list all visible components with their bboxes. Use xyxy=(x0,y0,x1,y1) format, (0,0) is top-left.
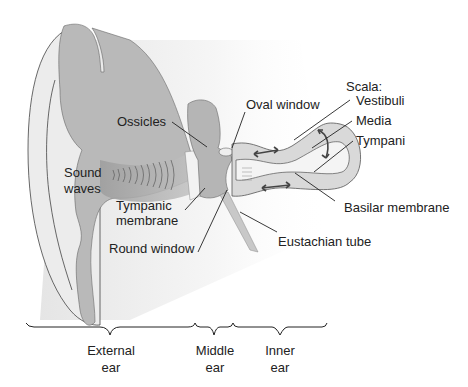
label-scala-heading: Scala: xyxy=(346,79,382,94)
oval-window-stapes xyxy=(219,148,233,156)
region-inner-ear: Inner ear xyxy=(256,343,304,375)
label-scala-tympani: Tympani xyxy=(356,133,405,148)
label-round-window: Round window xyxy=(109,241,194,256)
label-sound-waves-2: waves xyxy=(64,181,101,196)
region-middle-ear: Middle ear xyxy=(192,343,238,375)
label-ossicles: Ossicles xyxy=(117,114,166,129)
region-inner-line1: Inner xyxy=(256,343,304,358)
region-inner-line2: ear xyxy=(256,360,304,375)
region-middle-line2: ear xyxy=(192,360,238,375)
label-basilar-membrane: Basilar membrane xyxy=(344,200,450,215)
region-braces xyxy=(26,323,327,335)
region-middle-line1: Middle xyxy=(192,343,238,358)
label-eustachian-tube: Eustachian tube xyxy=(278,234,371,249)
label-oval-window: Oval window xyxy=(246,97,320,112)
region-external-ear: External ear xyxy=(80,343,142,375)
label-tympanic-2: membrane xyxy=(116,213,178,228)
label-scala-media: Media xyxy=(356,113,391,128)
label-tympanic-1: Tympanic xyxy=(116,198,172,213)
region-external-line1: External xyxy=(80,343,142,358)
region-external-line2: ear xyxy=(80,360,142,375)
label-sound-waves-1: Sound xyxy=(64,165,102,180)
label-scala-vestibuli: Vestibuli xyxy=(356,93,404,108)
